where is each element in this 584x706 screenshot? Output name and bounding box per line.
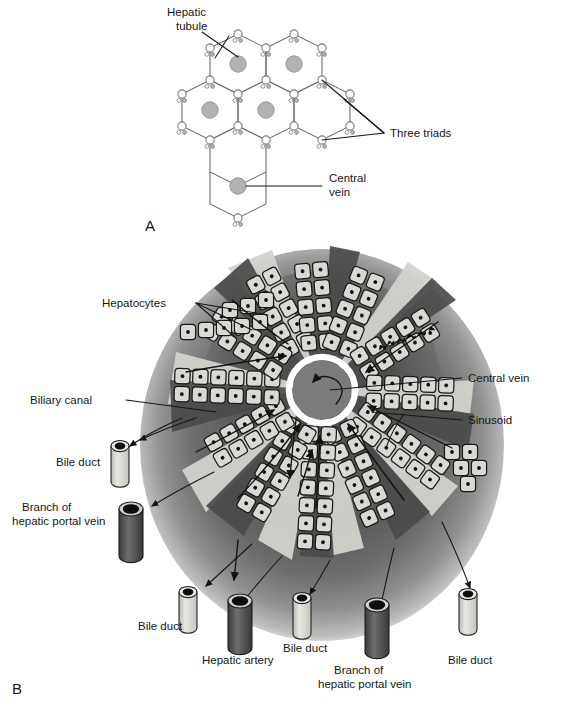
vessel-branch-hepatic-portal-vein-left bbox=[119, 502, 143, 563]
label-bile-duct-bottom-2: Bile duct bbox=[283, 642, 328, 654]
label-panel-a-central-vein-line1: Central bbox=[329, 172, 366, 184]
label-hepatocytes: Hepatocytes bbox=[102, 297, 166, 309]
label-bile-duct-left-upper: Bile duct bbox=[56, 456, 101, 468]
label-biliary-canal: Biliary canal bbox=[30, 394, 92, 406]
vessel-hepatic-artery bbox=[228, 594, 252, 655]
label-panel-b-central-vein: Central vein bbox=[468, 372, 529, 384]
label-hepatic-artery: Hepatic artery bbox=[202, 654, 274, 666]
label-branch-hepatic-portal-vein-bottom-line2: hepatic portal vein bbox=[318, 678, 411, 690]
vessel-bile-duct-bottom-3 bbox=[459, 588, 477, 635]
hex-lattice bbox=[182, 34, 350, 218]
panel-a-leaders bbox=[202, 32, 384, 186]
label-bile-duct-bottom-3: Bile duct bbox=[448, 654, 493, 666]
vessel-bile-duct-left-upper bbox=[111, 440, 129, 487]
panel-b: Hepatocytes Biliary canal Bile duct Bran… bbox=[12, 246, 529, 697]
label-panel-a-central-vein-line2: vein bbox=[329, 186, 350, 198]
panel-a-central-veins bbox=[202, 56, 302, 194]
panel-letter-b: B bbox=[12, 680, 22, 697]
panel-letter-a: A bbox=[145, 217, 155, 234]
central-vein bbox=[289, 357, 355, 423]
label-hepatic-tubule-line2: tubule bbox=[176, 20, 207, 32]
panel-a: Hepatic tubule Three triads Central vein… bbox=[145, 6, 452, 234]
label-branch-hepatic-portal-vein-left-line1: Branch of bbox=[22, 501, 72, 513]
label-branch-hepatic-portal-vein-left-line2: hepatic portal vein bbox=[12, 515, 105, 527]
label-hepatic-tubule-line1: Hepatic bbox=[167, 6, 206, 18]
label-sinusoid: Sinusoid bbox=[468, 414, 512, 426]
liver-lobule-figure: Hepatic tubule Three triads Central vein… bbox=[0, 0, 584, 706]
figure-canvas: Hepatic tubule Three triads Central vein… bbox=[0, 0, 584, 706]
label-branch-hepatic-portal-vein-bottom-line1: Branch of bbox=[334, 664, 384, 676]
label-three-triads: Three triads bbox=[390, 127, 452, 139]
vessel-branch-hepatic-portal-vein-bottom bbox=[365, 598, 389, 659]
label-bile-duct-bottom-1: Bile duct bbox=[138, 620, 183, 632]
vessel-bile-duct-bottom-2 bbox=[293, 592, 311, 639]
